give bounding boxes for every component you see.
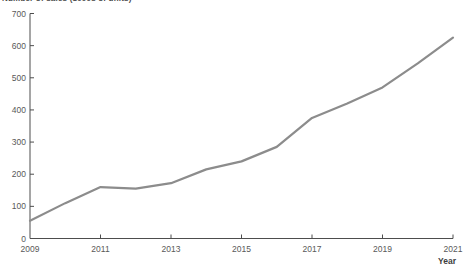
x-axis-tick-label: 2011 bbox=[91, 244, 110, 254]
y-axis-tick-label: 100 bbox=[12, 201, 26, 211]
chart-figure: Number of sales (1000s of units) 0100200… bbox=[0, 0, 469, 267]
x-axis-tick-label: 2017 bbox=[303, 244, 322, 254]
y-axis-tick-label: 400 bbox=[12, 105, 26, 115]
data-series-line bbox=[30, 38, 453, 221]
y-axis-tick-label: 300 bbox=[12, 137, 26, 147]
y-axis-tick-label: 700 bbox=[12, 9, 26, 19]
x-axis-title: Year bbox=[438, 256, 457, 266]
y-axis-tick-label: 500 bbox=[12, 73, 26, 83]
line-chart-canvas: 0100200300400500600700200920112013201520… bbox=[0, 0, 469, 267]
x-axis-tick-label: 2013 bbox=[162, 244, 181, 254]
x-axis-tick-label: 2019 bbox=[373, 244, 392, 254]
y-axis-tick-label: 0 bbox=[21, 234, 26, 244]
x-axis-tick-label: 2015 bbox=[232, 244, 251, 254]
x-axis-tick-label: 2021 bbox=[444, 244, 463, 254]
x-axis-tick-label: 2009 bbox=[21, 244, 40, 254]
y-axis-tick-label: 600 bbox=[12, 41, 26, 51]
y-axis-tick-label: 200 bbox=[12, 169, 26, 179]
axes-lines bbox=[30, 14, 453, 239]
